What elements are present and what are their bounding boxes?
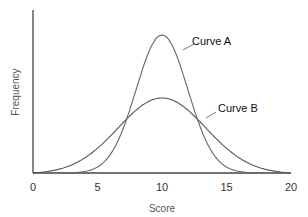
x-tick-label: 10 [156, 181, 168, 193]
x-axis-label: Score [149, 203, 176, 214]
normal-curves-chart: Curve A Curve B 05101520 Score Frequency [0, 0, 308, 217]
x-tick-label: 20 [285, 181, 297, 193]
curve-b-label: Curve B [218, 102, 258, 114]
curve-b-leader [206, 112, 216, 118]
curve-a-label: Curve A [192, 35, 232, 47]
y-axis-label: Frequency [10, 68, 21, 115]
x-tick-label: 0 [30, 181, 36, 193]
x-tick-label: 5 [94, 181, 100, 193]
x-tick-label: 15 [220, 181, 232, 193]
